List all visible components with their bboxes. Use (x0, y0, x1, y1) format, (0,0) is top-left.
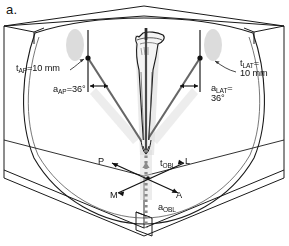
label-a-obl-subscript: OBL (163, 206, 176, 213)
label-t-lat-equals: = (254, 58, 259, 68)
label-t-ap-value: =10 mm (27, 63, 60, 73)
diagram-canvas (0, 0, 289, 246)
label-t-obl: tOBL (160, 159, 175, 169)
label-a-obl: aOBL (158, 203, 176, 213)
shadow-left-pin (66, 29, 84, 61)
label-t-obl-subscript: OBL (162, 162, 175, 169)
box-corner-right (254, 26, 284, 44)
label-a-ap-subscript: AP (58, 88, 67, 95)
figure-panel: a. tAP=10 mm aAP=36° tLAT= 10 mm aLAT= 3… (0, 0, 289, 246)
label-a-lat-equals: = (227, 83, 232, 93)
right-angle-arrow-end (194, 84, 198, 88)
panel-letter: a. (6, 2, 17, 17)
label-a-ap: aAP=36° (53, 85, 85, 95)
label-a-lat-value: 36° (211, 93, 225, 103)
shadow-right-ray (150, 88, 198, 144)
label-t-ap: tAP=10 mm (16, 64, 60, 74)
label-t-lat: tLAT= 10 mm (240, 59, 286, 78)
label-a-lat-subscript: LAT (216, 87, 227, 94)
left-pin-entry-point (85, 55, 90, 60)
label-lateral: L (185, 157, 190, 167)
label-t-lat-value: 10 mm (240, 68, 268, 78)
right-pin-entry-point (197, 55, 202, 60)
label-posterior: P (98, 157, 104, 167)
label-t-lat-subscript: LAT (242, 62, 253, 69)
left-angle-arrow-start (90, 84, 94, 88)
shadow-right-pin (204, 29, 222, 61)
label-a-lat: aLAT= 36° (211, 84, 251, 103)
label-medial: M (110, 191, 118, 201)
label-anterior: A (176, 191, 182, 201)
label-t-ap-subscript: AP (18, 67, 27, 74)
compass-center-point (146, 176, 150, 180)
shadow-left-ray (90, 88, 140, 144)
label-a-ap-value: =36° (67, 84, 86, 94)
box-corner-left (4, 26, 34, 44)
